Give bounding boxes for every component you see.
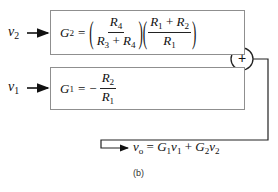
input-v2-label: v2 (8, 24, 19, 41)
g2-fraction-1: R4 R3 + R4 (95, 15, 138, 51)
input-v1-label: v1 (8, 79, 19, 96)
g1-equation: G1 = − R2 R1 (60, 68, 244, 109)
output-equation: vo = G1v1 + G2v2 (133, 139, 220, 156)
g2-fraction-2: R1 + R2 R1 (148, 15, 191, 51)
gain-block-g1: G1 = − R2 R1 (50, 67, 245, 110)
g1-fraction: R2 R1 (100, 71, 117, 107)
gain-block-g2: G2 = ( R4 R3 + R4 ) ( R1 + R2 R1 ) (50, 10, 245, 55)
figure-caption: (b) (133, 168, 144, 178)
summer-plus-icon: + (236, 50, 248, 66)
g2-equation: G2 = ( R4 R3 + R4 ) ( R1 + R2 R1 ) (60, 11, 244, 54)
